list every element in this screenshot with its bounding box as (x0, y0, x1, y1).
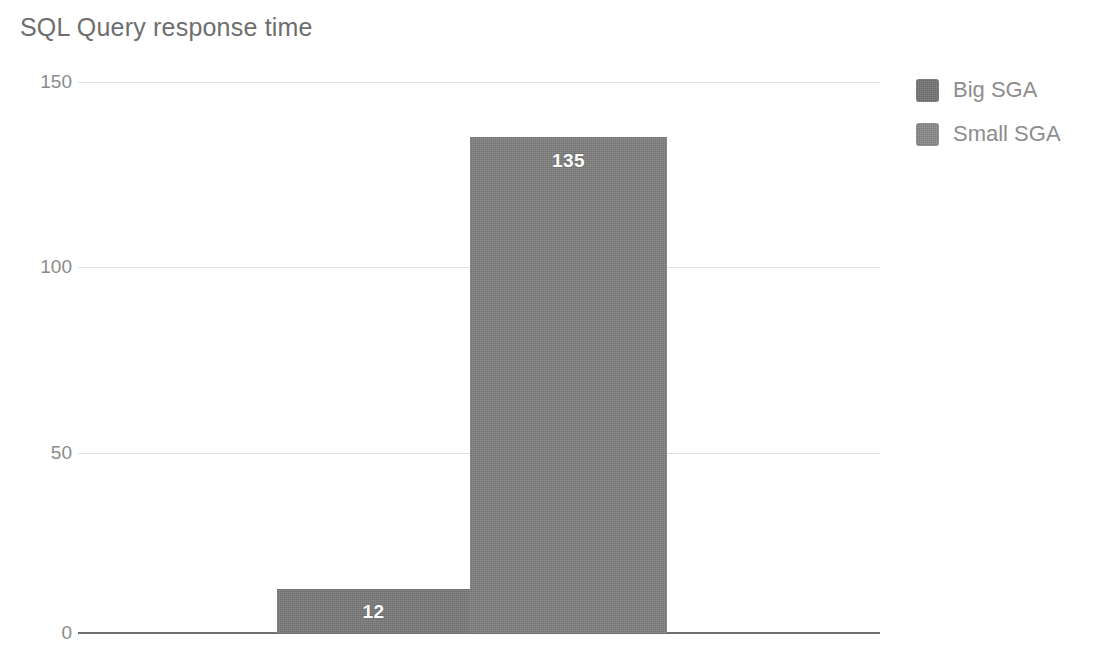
y-axis-tick-150: 150 (10, 72, 72, 91)
legend-label-big-sga: Big SGA (953, 79, 1037, 101)
bar-value-label-small-sga: 135 (470, 150, 667, 172)
y-axis-tick-50: 50 (10, 443, 72, 462)
legend-label-small-sga: Small SGA (953, 123, 1061, 145)
bar-chart: SQL Query response time 150 100 50 0 12 … (0, 0, 1104, 670)
bar-small-sga[interactable]: 135 (470, 137, 667, 633)
legend-swatch-icon-big-sga (916, 79, 939, 102)
plot-area: 12 135 (78, 82, 880, 633)
y-axis-tick-100: 100 (10, 257, 72, 276)
gridline-150 (78, 82, 880, 83)
legend-item-small-sga[interactable]: Small SGA (916, 112, 1104, 156)
chart-legend: Big SGA Small SGA (916, 68, 1104, 156)
legend-item-big-sga[interactable]: Big SGA (916, 68, 1104, 112)
bar-value-label-big-sga: 12 (277, 601, 470, 623)
y-axis-tick-0: 0 (10, 623, 72, 642)
legend-swatch-icon-small-sga (916, 123, 939, 146)
bar-big-sga[interactable]: 12 (277, 589, 470, 633)
chart-title: SQL Query response time (20, 13, 313, 42)
